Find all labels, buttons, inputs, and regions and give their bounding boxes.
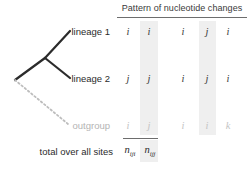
row-label-lineage2: lineage 2 [20,73,110,84]
cell-outgroup-col3: i [176,120,190,131]
totals-rule [123,138,158,139]
cell-outgroup-col4: i [200,120,214,131]
cell-lineage2-col5: i [221,73,235,84]
cell-lineage1-col1: i [121,26,135,37]
cell-outgroup-col2: j [142,120,156,131]
cell-lineage2-col3: i [176,73,190,84]
cell-lineage2-col4: j [200,73,214,84]
cell-lineage1-col4: j [200,26,214,37]
row-label-lineage1: lineage 1 [20,26,110,37]
total-cell-col1: niji [119,144,141,158]
cell-outgroup-col1: i [121,120,135,131]
cell-lineage2-col2: j [142,73,156,84]
total-subscript-col2: ijj [150,150,156,158]
cell-lineage2-col1: j [121,73,135,84]
cell-outgroup-col5: k [221,120,235,131]
total-subscript-col1: iji [130,150,136,158]
cell-lineage1-col5: i [221,26,235,37]
cell-lineage1-col2: i [142,26,156,37]
totals-label: total over all sites [8,146,113,157]
cell-lineage1-col3: i [176,26,190,37]
row-label-outgroup: outgroup [20,120,110,131]
tree-branch-outgroup [15,80,68,124]
total-cell-col2: nijj [139,144,161,158]
nucleotide-pattern-figure: Pattern of nucleotide changes lineage 1 … [0,0,249,169]
